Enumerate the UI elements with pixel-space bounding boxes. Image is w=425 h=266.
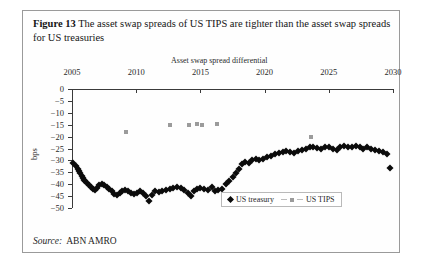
x-tick-mark bbox=[329, 89, 330, 93]
legend-line-icon-right bbox=[297, 199, 303, 200]
legend-label-us-treasury: US treasury bbox=[236, 195, 274, 204]
legend-item-us-tips: US TIPS bbox=[281, 195, 335, 204]
chart-legend: US treasury US TIPS bbox=[221, 192, 342, 207]
figure-caption: Figure 13 The asset swap spreads of US T… bbox=[33, 17, 391, 44]
data-point-square bbox=[124, 130, 128, 134]
data-point-square bbox=[215, 122, 219, 126]
legend-label-us-tips: US TIPS bbox=[306, 195, 335, 204]
data-point-square bbox=[200, 123, 204, 127]
diamond-marker-icon bbox=[227, 196, 234, 203]
data-point-square bbox=[195, 122, 199, 126]
data-point-diamond bbox=[387, 164, 394, 171]
source-value: ABN AMRO bbox=[66, 236, 116, 246]
square-marker-icon bbox=[290, 198, 294, 202]
chart-plot-area: Asset swap spread differential 200520102… bbox=[31, 59, 393, 219]
figure-caption-text: The asset swap spreads of US TIPS are ti… bbox=[33, 18, 390, 43]
x-tick-mark bbox=[136, 89, 137, 93]
figure-container: Figure 13 The asset swap spreads of US T… bbox=[22, 10, 400, 253]
x-tick-mark bbox=[393, 89, 394, 93]
x-tick-mark bbox=[200, 89, 201, 93]
source-label: Source: bbox=[33, 236, 62, 246]
x-tick-mark bbox=[72, 89, 73, 93]
data-point-square bbox=[309, 135, 313, 139]
legend-line-icon bbox=[281, 199, 287, 200]
data-point-diamond bbox=[383, 151, 390, 158]
figure-number: Figure 13 bbox=[33, 18, 76, 29]
x-tick-mark bbox=[265, 89, 266, 93]
data-point-square bbox=[168, 123, 172, 127]
legend-item-us-treasury: US treasury bbox=[228, 195, 274, 204]
figure-source: Source:ABN AMRO bbox=[33, 236, 117, 246]
data-point-square bbox=[187, 123, 191, 127]
